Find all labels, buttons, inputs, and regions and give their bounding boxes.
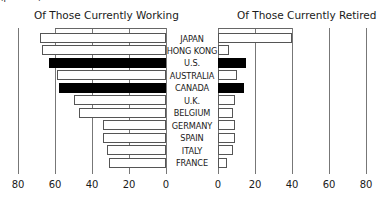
- country-label: GERMANY: [166, 121, 218, 131]
- working-bar-canada: [59, 83, 166, 93]
- retired-bar-u-s: [218, 58, 246, 68]
- units-note: (percent): [0, 0, 42, 2]
- left-axis-tick-label: 20: [117, 179, 141, 190]
- retired-bar-australia: [218, 70, 237, 80]
- country-label: CANADA: [166, 83, 218, 93]
- retired-bar-hong-kong: [218, 45, 229, 55]
- working-bar-germany: [103, 120, 166, 130]
- left-axis-tick-label: 40: [80, 179, 104, 190]
- right-gridline: [329, 28, 330, 174]
- working-bar-u-s: [49, 58, 166, 68]
- working-bar-belgium: [79, 108, 166, 118]
- retired-bar-japan: [218, 33, 292, 43]
- country-label: U.K.: [166, 96, 218, 106]
- retired-bar-canada: [218, 83, 244, 93]
- retired-bar-germany: [218, 120, 235, 130]
- retired-bar-italy: [218, 145, 233, 155]
- working-bar-australia: [57, 70, 166, 80]
- working-bar-u-k: [74, 95, 167, 105]
- left-axis-tick-label: 0: [154, 179, 178, 190]
- left-gridline: [18, 28, 19, 174]
- right-axis-tick-label: 80: [354, 179, 378, 190]
- right-top-rule: [218, 28, 292, 29]
- right-gridline: [255, 28, 256, 174]
- right-gridline: [292, 28, 293, 174]
- right-axis-tick-label: 40: [280, 179, 304, 190]
- left-axis-tick-label: 80: [6, 179, 30, 190]
- right-panel-title: Of Those Currently Retired: [237, 9, 377, 21]
- retired-bar-belgium: [218, 108, 233, 118]
- left-axis-tick-label: 60: [43, 179, 67, 190]
- left-top-rule: [55, 28, 166, 29]
- country-label: AUSTRALIA: [166, 71, 218, 81]
- retired-bar-u-k: [218, 95, 235, 105]
- country-label: JAPAN: [166, 34, 218, 44]
- right-gridline: [366, 28, 367, 174]
- country-label: U.S.: [166, 58, 218, 68]
- working-bar-spain: [103, 133, 166, 143]
- working-bar-hong-kong: [42, 45, 166, 55]
- country-label: FRANCE: [166, 158, 218, 168]
- right-axis-tick-label: 20: [243, 179, 267, 190]
- retired-bar-france: [218, 158, 227, 168]
- right-axis-tick-label: 0: [206, 179, 230, 190]
- working-bar-japan: [40, 33, 166, 43]
- country-label: SPAIN: [166, 133, 218, 143]
- working-bar-italy: [107, 145, 166, 155]
- country-label: ITALY: [166, 146, 218, 156]
- retired-bar-spain: [218, 133, 235, 143]
- country-label: HONG KONG: [166, 46, 218, 56]
- working-bar-france: [109, 158, 166, 168]
- right-axis-tick-label: 60: [317, 179, 341, 190]
- left-panel-title: Of Those Currently Working: [34, 9, 179, 21]
- country-label: BELGIUM: [166, 108, 218, 118]
